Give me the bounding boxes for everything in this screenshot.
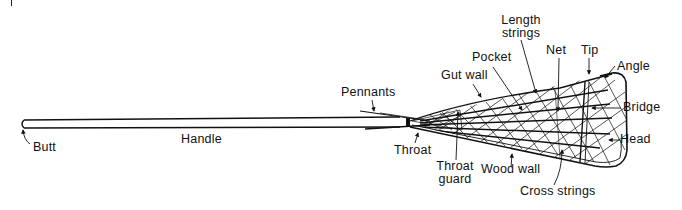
lacrosse-stick-diagram: Butt Handle Pennants Throat Throat guard… [0,0,682,210]
length-strings-leader [521,40,536,93]
lacrosse-stick-drawing [0,0,682,210]
label-tip: Tip [581,44,599,57]
label-throat-guard: Throat guard [428,160,482,186]
label-bridge: Bridge [623,101,660,114]
butt-leader [23,130,30,144]
handle-shaft [22,117,400,128]
angle-leader [605,66,615,78]
pennants-leader [372,100,374,111]
label-pocket: Pocket [472,51,511,64]
label-gut-wall: Gut wall [441,69,488,82]
label-wood-wall: Wood wall [481,163,540,176]
label-pennants: Pennants [341,86,395,99]
throat-binding [406,118,410,127]
gut-wall-leader [473,84,481,97]
wood-wall [410,73,627,167]
net-leader [558,58,559,111]
label-angle: Angle [617,60,650,73]
label-net: Net [546,44,566,57]
label-handle: Handle [181,133,222,146]
label-length-strings: Length strings [496,14,546,40]
label-throat: Throat [394,144,431,157]
label-butt: Butt [33,141,56,154]
label-head: Head [620,133,651,146]
throat-leader [415,133,418,143]
label-cross-strings: Cross strings [520,185,596,198]
pocket-leader [493,67,522,110]
